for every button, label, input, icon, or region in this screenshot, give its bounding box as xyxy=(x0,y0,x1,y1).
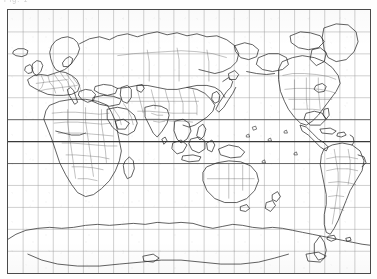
coastline-tasmania xyxy=(241,205,250,212)
coastline-baltic xyxy=(63,57,73,67)
coastline-hokkaido xyxy=(229,71,239,80)
coastline-korea xyxy=(212,91,220,103)
coastline-iceland xyxy=(13,49,28,57)
coastline-great-britain xyxy=(32,61,43,76)
coastline-canadian-arctic xyxy=(290,32,324,50)
coastline-great-lakes xyxy=(314,83,326,92)
coastline-borneo xyxy=(189,137,205,153)
page-header-ink: Fig. 1 xyxy=(4,0,124,6)
coastline-japan xyxy=(216,77,236,112)
coastline-java xyxy=(182,155,201,162)
pacific-islands xyxy=(247,126,298,163)
coastline-north-america xyxy=(279,56,341,125)
coastline-lesser-antilles xyxy=(350,135,354,145)
coastline-philippines xyxy=(197,124,206,140)
coastline-india xyxy=(145,105,169,137)
world-map-frame xyxy=(7,9,371,274)
coastline-anatolia xyxy=(93,95,122,106)
coastline-new-zealand-south xyxy=(266,201,276,212)
coastline-horn-of-africa xyxy=(115,119,129,129)
coastline-africa xyxy=(44,99,122,196)
coastline-new-guinea xyxy=(219,145,245,158)
coastline-australia xyxy=(203,161,259,203)
coastline-aleutians xyxy=(247,72,275,75)
coastline-arabia xyxy=(107,107,137,135)
coastline-black-sea xyxy=(95,84,118,95)
map-page: Fig. 1 xyxy=(0,0,377,279)
coastline-east-asia xyxy=(183,87,215,127)
coastline-antarctic-peninsula xyxy=(314,236,326,260)
border-russia-south xyxy=(117,85,224,97)
coastline-hispaniola xyxy=(337,132,346,137)
coastline-alaska xyxy=(257,54,289,72)
coastline-cuba xyxy=(320,128,336,134)
coastline-indochina xyxy=(174,119,191,143)
coastline-italy xyxy=(68,87,78,104)
coastline-western-europe xyxy=(28,72,80,96)
coastline-baffin xyxy=(310,48,326,66)
coastline-chukotka xyxy=(235,43,259,60)
coastline-falklands xyxy=(346,237,351,241)
coastline-florida xyxy=(323,108,329,119)
coastline-sri-lanka xyxy=(162,137,167,144)
world-map-canvas xyxy=(8,10,370,273)
coastline-greenland xyxy=(322,24,358,62)
coastline-siberia-north xyxy=(80,32,239,74)
header-caption: Fig. 1 xyxy=(4,0,124,3)
